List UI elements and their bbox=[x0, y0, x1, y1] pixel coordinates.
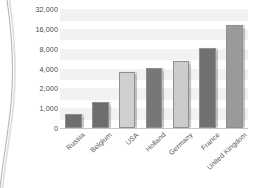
y-axis-tick-label: 16,000 bbox=[6, 24, 58, 33]
bar-united-kingdom[interactable] bbox=[226, 25, 243, 128]
y-axis-tick-label: 32,000 bbox=[6, 5, 58, 14]
bar-usa[interactable] bbox=[119, 72, 136, 128]
x-axis-tick-label: Russia bbox=[65, 131, 86, 151]
x-axis-labels: RussiaBelgiumUSAHollandGermanyFranceUnit… bbox=[60, 129, 248, 188]
chart-figure: 01,0002,0004,0008,00016,00032,000 Russia… bbox=[0, 0, 258, 188]
y-axis-tick-label: 1,000 bbox=[6, 104, 58, 113]
bar-germany[interactable] bbox=[173, 61, 190, 128]
y-axis-tick-label: 2,000 bbox=[6, 84, 58, 93]
y-axis-tick-label: 4,000 bbox=[6, 64, 58, 73]
y-axis-tick-label: 0 bbox=[6, 124, 58, 133]
bar-france[interactable] bbox=[199, 48, 216, 128]
bar-series bbox=[60, 9, 248, 128]
y-axis: 01,0002,0004,0008,00016,00032,000 bbox=[0, 0, 58, 188]
bar-chart: 01,0002,0004,0008,00016,00032,000 Russia… bbox=[0, 0, 258, 188]
x-axis-tick-label: Germany bbox=[167, 131, 193, 156]
bar-holland[interactable] bbox=[146, 68, 163, 128]
bar-russia[interactable] bbox=[65, 114, 82, 128]
x-axis-tick-label: Belgium bbox=[89, 131, 113, 154]
y-axis-tick-label: 8,000 bbox=[6, 44, 58, 53]
x-axis-tick-label: USA bbox=[124, 131, 140, 146]
bar-belgium[interactable] bbox=[92, 102, 109, 128]
x-axis-tick-label: France bbox=[199, 131, 220, 151]
x-axis-tick-label: Holland bbox=[144, 131, 167, 153]
